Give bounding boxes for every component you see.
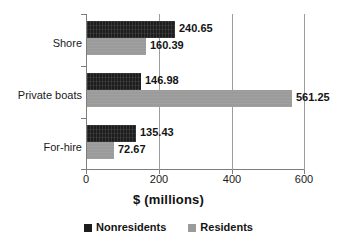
- chart-legend: Nonresidents Residents: [0, 222, 337, 233]
- bar-for-hire-residents[interactable]: [87, 142, 114, 159]
- bar-private-boats-residents[interactable]: [87, 90, 292, 107]
- y-tick-top: [81, 14, 86, 15]
- legend-swatch-nonresidents: [84, 224, 92, 232]
- category-label-for-hire: For-hire: [0, 142, 82, 153]
- x-tick-label-600: 600: [295, 174, 313, 185]
- x-tick-label-400: 400: [223, 174, 241, 185]
- bar-shore-nonresidents[interactable]: [87, 21, 175, 38]
- y-tick-1: [81, 66, 86, 67]
- legend-label-residents: Residents: [200, 222, 253, 233]
- category-label-private-boats: Private boats: [0, 90, 82, 101]
- x-axis-tick-labels: 0 200 400 600: [86, 174, 305, 188]
- x-axis-line: [86, 169, 305, 170]
- bar-chart: Shore Private boats For-hire 240.65 160.…: [0, 0, 337, 245]
- category-axis-labels: Shore Private boats For-hire: [0, 14, 82, 170]
- y-tick-bottom: [81, 169, 86, 170]
- bar-private-boats-nonresidents[interactable]: [87, 73, 141, 90]
- bar-value-private-boats-nonresidents: 146.98: [145, 75, 179, 86]
- y-tick-2: [81, 118, 86, 119]
- legend-label-nonresidents: Nonresidents: [96, 222, 166, 233]
- bar-value-for-hire-nonresidents: 135.43: [140, 127, 174, 138]
- legend-swatch-residents: [188, 224, 196, 232]
- x-tick-label-200: 200: [150, 174, 168, 185]
- x-axis-title: $ (millions): [0, 192, 337, 207]
- legend-item-nonresidents[interactable]: Nonresidents: [84, 222, 166, 233]
- bar-value-for-hire-residents: 72.67: [118, 144, 146, 155]
- bar-value-private-boats-residents: 561.25: [296, 92, 330, 103]
- legend-item-residents[interactable]: Residents: [188, 222, 253, 233]
- bar-value-shore-residents: 160.39: [150, 40, 184, 51]
- category-label-shore: Shore: [0, 38, 82, 49]
- bar-shore-residents[interactable]: [87, 38, 146, 55]
- bar-for-hire-nonresidents[interactable]: [87, 125, 136, 142]
- bar-value-shore-nonresidents: 240.65: [179, 23, 213, 34]
- x-tick-label-0: 0: [83, 174, 89, 185]
- plot-area: 240.65 160.39 146.98 561.25 135.43 72.67: [86, 14, 305, 170]
